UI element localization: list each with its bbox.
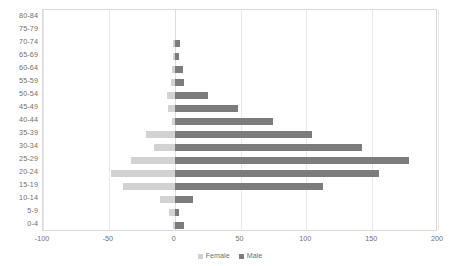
bar-male: [175, 131, 312, 138]
bar-male: [175, 144, 362, 151]
bar-male: [175, 92, 208, 99]
y-tick-label: 10-14: [0, 194, 38, 202]
bar-row: [43, 75, 436, 88]
bar-female: [168, 105, 175, 112]
y-axis-labels: 80-8475-7970-7465-6960-6455-5950-5445-49…: [0, 9, 38, 231]
bar-female: [154, 144, 175, 151]
bar-female: [146, 131, 175, 138]
population-pyramid-chart: 80-8475-7970-7465-6960-6455-5950-5445-49…: [0, 0, 460, 266]
bar-male: [175, 66, 183, 73]
y-tick-label: 15-19: [0, 181, 38, 189]
y-tick-label: 80-84: [0, 12, 38, 20]
legend-swatch-male-icon: [239, 254, 244, 259]
bar-row: [43, 62, 436, 75]
y-tick-label: 55-59: [0, 77, 38, 85]
legend-label-female: Female: [206, 252, 230, 260]
gridline-200: [438, 10, 439, 230]
bar-row: [43, 154, 436, 167]
y-tick-label: 45-49: [0, 103, 38, 111]
x-tick-label: 0: [172, 234, 176, 243]
bar-row: [43, 128, 436, 141]
bar-row: [43, 49, 436, 62]
bar-row: [43, 101, 436, 114]
bar-female: [111, 170, 174, 177]
x-tick-label: 150: [365, 234, 377, 243]
bar-rows: [43, 10, 436, 230]
bar-male: [175, 196, 193, 203]
bar-row: [43, 141, 436, 154]
y-tick-label: 60-64: [0, 64, 38, 72]
y-tick-label: 25-29: [0, 155, 38, 163]
plot-area: [42, 9, 437, 231]
y-tick-label: 5-9: [0, 207, 38, 215]
y-tick-label: 70-74: [0, 38, 38, 46]
bar-male: [175, 157, 409, 164]
bar-row: [43, 88, 436, 101]
bar-female: [160, 196, 174, 203]
y-tick-label: 20-24: [0, 168, 38, 176]
x-tick-label: -50: [103, 234, 113, 243]
bar-row: [43, 23, 436, 36]
bar-row: [43, 36, 436, 49]
legend-item-female[interactable]: Female: [198, 252, 230, 260]
x-tick-label: -100: [35, 234, 49, 243]
bar-row: [43, 206, 436, 219]
bar-row: [43, 219, 436, 232]
y-tick-label: 35-39: [0, 129, 38, 137]
bar-male: [175, 53, 179, 60]
bar-female: [167, 92, 175, 99]
y-tick-label: 0-4: [0, 220, 38, 228]
x-tick-label: 50: [236, 234, 244, 243]
y-tick-label: 75-79: [0, 25, 38, 33]
legend-label-male: Male: [247, 252, 263, 260]
bar-female: [123, 183, 174, 190]
bar-row: [43, 10, 436, 23]
bar-male: [175, 209, 179, 216]
bar-row: [43, 193, 436, 206]
y-tick-label: 30-34: [0, 142, 38, 150]
bar-row: [43, 114, 436, 127]
y-tick-label: 65-69: [0, 51, 38, 59]
bar-male: [175, 222, 184, 229]
bar-female: [131, 157, 174, 164]
x-tick-label: 200: [431, 234, 443, 243]
bar-male: [175, 183, 324, 190]
y-tick-label: 50-54: [0, 90, 38, 98]
bar-male: [175, 105, 238, 112]
bar-male: [175, 170, 379, 177]
bar-male: [175, 118, 274, 125]
bar-row: [43, 167, 436, 180]
legend-swatch-female-icon: [198, 254, 203, 259]
legend-item-male[interactable]: Male: [239, 252, 263, 260]
x-tick-label: 100: [299, 234, 311, 243]
chart-legend: Female Male: [0, 250, 460, 262]
bar-row: [43, 180, 436, 193]
y-tick-label: 40-44: [0, 116, 38, 124]
bar-male: [175, 40, 180, 47]
bar-male: [175, 79, 184, 86]
x-axis-labels: -100-50050100150200: [0, 234, 460, 246]
